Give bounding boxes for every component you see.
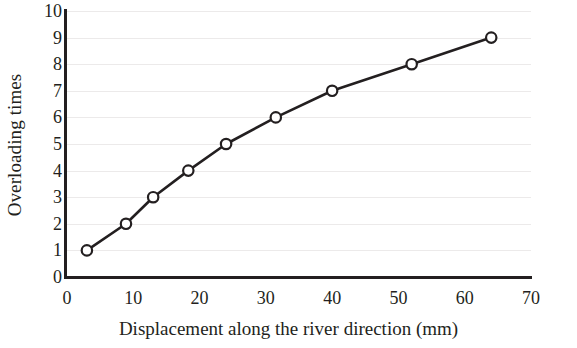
y-tick-label: 7	[26, 82, 62, 100]
x-tick-label: 70	[501, 288, 561, 308]
x-axis-title: Displacement along the river direction (…	[0, 317, 577, 341]
gridline	[67, 224, 531, 225]
y-tick-label: 6	[26, 108, 62, 126]
gridline	[67, 91, 531, 92]
y-tick-label: 3	[26, 188, 62, 206]
y-tick-label: 2	[26, 215, 62, 233]
x-tick-label: 0	[37, 288, 97, 308]
gridline	[67, 64, 531, 65]
gridline	[67, 250, 531, 251]
x-axis-tick-labels: 010203040506070	[0, 288, 577, 312]
y-tick-label: 8	[26, 55, 62, 73]
y-axis-tick-labels: 012345678910	[26, 0, 62, 290]
x-tick-label: 10	[103, 288, 163, 308]
x-tick-label: 60	[435, 288, 495, 308]
x-axis-title-text: Displacement along the river direction (…	[119, 318, 458, 339]
x-tick-label: 50	[368, 288, 428, 308]
gridline	[67, 38, 531, 39]
y-axis-line	[64, 9, 67, 279]
gridline	[67, 11, 531, 12]
gridline	[67, 144, 531, 145]
y-tick-label: 5	[26, 135, 62, 153]
y-tick-label: 4	[26, 162, 62, 180]
y-tick-label: 0	[26, 268, 62, 286]
gridline	[67, 117, 531, 118]
y-tick-label: 1	[26, 241, 62, 259]
y-tick-label: 10	[26, 2, 62, 20]
x-tick-label: 20	[170, 288, 230, 308]
y-axis-title-text: Overloading times	[4, 74, 26, 217]
x-tick-label: 30	[236, 288, 296, 308]
x-tick-label: 40	[302, 288, 362, 308]
chart-figure: Overloading times 012345678910 010203040…	[0, 0, 577, 348]
plot-area	[67, 11, 531, 277]
gridline	[67, 171, 531, 172]
y-tick-label: 9	[26, 29, 62, 47]
gridline	[67, 197, 531, 198]
x-axis-line	[64, 276, 532, 279]
